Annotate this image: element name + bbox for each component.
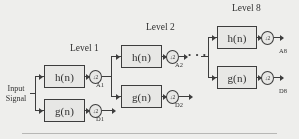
a7-split-vertical (208, 37, 209, 78)
a7-to-level8-highpass-arrow (212, 75, 216, 81)
level1-lowpass-filter-block: h(n) (44, 65, 85, 88)
wavelet-decomposition-diagram: Level 1 Level 2 Level 8 Input Signal h(n… (0, 0, 299, 139)
output-label-a1: A1 (96, 81, 104, 88)
d8-out-arrow (280, 75, 284, 81)
a7-to-level8-lowpass-arrow (212, 35, 216, 41)
output-label-d8: D8 (279, 87, 287, 94)
input-to-lowpass-arrow (39, 74, 43, 80)
a1-to-level2-lowpass-arrow (116, 54, 120, 60)
level8-highpass-downsampler: ↓2 (261, 71, 274, 85)
level8-highpass-filter-block: g(n) (217, 66, 257, 89)
input-split-vertical (35, 76, 36, 111)
level-1-title: Level 1 (70, 43, 99, 53)
scan-artifact-line (22, 133, 277, 134)
output-label-d1: D1 (96, 115, 104, 122)
level-8-title: Level 8 (232, 3, 261, 13)
a1-split-vertical (111, 56, 112, 96)
output-label-a8: A8 (279, 47, 287, 54)
d1-out-arrow (112, 108, 116, 114)
a8-out-arrow (280, 35, 284, 41)
input-signal-line2: Signal (6, 94, 26, 103)
level2-lowpass-filter-block: h(n) (121, 45, 162, 68)
input-signal-label: Input Signal (2, 84, 30, 103)
d2-out-arrow (189, 94, 193, 100)
input-signal-line1: Input (8, 84, 25, 93)
output-label-a2: A2 (175, 61, 183, 68)
output-label-d2: D2 (175, 101, 183, 108)
level1-highpass-filter-block: g(n) (44, 99, 85, 122)
level2-highpass-filter-block: g(n) (121, 85, 162, 108)
a1-to-level2-highpass-arrow (116, 94, 120, 100)
level8-lowpass-downsampler: ↓2 (261, 31, 274, 45)
levels-ellipsis: • • • (188, 50, 207, 60)
level-2-title: Level 2 (146, 22, 175, 32)
level8-lowpass-filter-block: h(n) (217, 26, 257, 49)
input-to-highpass-arrow (39, 108, 43, 114)
